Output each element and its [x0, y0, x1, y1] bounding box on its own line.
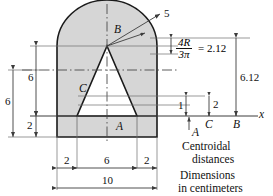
dim-bottom-left-2: 2: [64, 155, 70, 166]
centroidal-note-line1: Centroidal: [182, 141, 231, 153]
dim-centroid-2: 2: [213, 99, 219, 110]
dim-semicircle-centroid-formula: 4R 3π = 2.12: [176, 37, 226, 60]
dim-left-base-2: 2: [27, 120, 33, 131]
centroidal-note-line2: distances: [192, 154, 234, 166]
point-label-B-shape: B: [114, 24, 121, 36]
dim-left-inner-6: 6: [28, 72, 34, 83]
x-axis-label: x: [259, 109, 264, 121]
dim-right-total-612: 6.12: [240, 72, 259, 83]
units-note-line1: Dimensions: [180, 170, 235, 182]
units-note-line2: in centimeters: [178, 183, 243, 195]
dim-radius-5: 5: [164, 8, 170, 19]
point-label-C-axis: C: [205, 119, 213, 131]
dim-centroid-1: 1: [178, 100, 184, 111]
dim-bottom-right-2: 2: [144, 155, 150, 166]
dim-bottom-total-10: 10: [102, 175, 113, 186]
dim-bottom-middle-6: 6: [104, 155, 110, 166]
point-label-A-shape: A: [116, 121, 123, 133]
point-label-A-axis: A: [192, 127, 199, 139]
technical-diagram: B C A A C B x 5 6 6 2 2 6 2 10 6.12 1 2 …: [0, 0, 273, 196]
diagram-canvas: [0, 0, 273, 196]
point-label-C-shape: C: [79, 83, 87, 95]
formula-fraction: 4R 3π: [176, 37, 192, 60]
point-label-B-axis: B: [233, 119, 240, 131]
formula-denominator: 3π: [176, 49, 192, 60]
formula-equals: = 2.12: [195, 43, 226, 54]
dim-left-outer-6: 6: [5, 96, 11, 107]
